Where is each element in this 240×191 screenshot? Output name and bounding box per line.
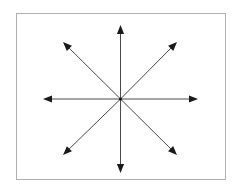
radial-arrow-diagram (0, 0, 240, 191)
figure-root (0, 0, 240, 191)
center-origin-point (119, 97, 122, 100)
